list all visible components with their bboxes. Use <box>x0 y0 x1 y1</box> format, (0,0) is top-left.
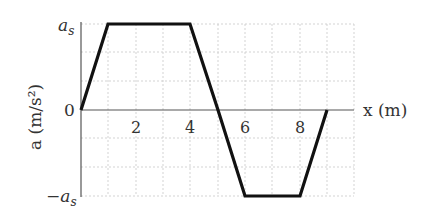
x-tick-2: 2 <box>131 118 141 137</box>
y-tick-as: as <box>58 15 74 38</box>
x-axis-label: x (m) <box>363 100 407 120</box>
x-tick-4: 4 <box>185 118 195 137</box>
y-tick-neg-as: −as <box>46 186 77 209</box>
y-axis-label: a (m/s²) <box>25 84 45 150</box>
x-tick-6: 6 <box>240 118 250 137</box>
y-tick-zero: 0 <box>64 100 75 120</box>
acceleration-chart: as 0 −as 2 4 6 8 x (m) a (m/s²) <box>0 0 424 219</box>
x-tick-8: 8 <box>295 118 305 137</box>
